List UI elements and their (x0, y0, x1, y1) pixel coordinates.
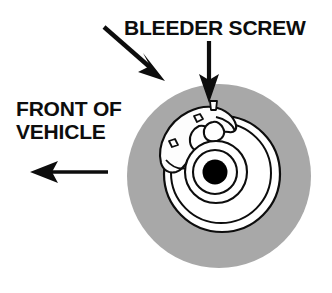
front-of-vehicle-direction-arrow (30, 161, 108, 183)
caliper-pad-lobe-upper (204, 122, 224, 142)
brake-assembly-illustration: BLEEDER SCREW FRONT OF VEHICLE (0, 0, 332, 293)
hub-center-bore (203, 160, 228, 185)
bleeder-screw (210, 101, 217, 110)
caliper-pointer-arrow-head (138, 53, 165, 81)
front-of-vehicle-label-line2: VEHICLE (16, 120, 106, 143)
bleeder-screw-label: BLEEDER SCREW (124, 16, 306, 39)
front-of-vehicle-label-line1: FRONT OF (16, 97, 122, 120)
brake-diagram-root: BLEEDER SCREW FRONT OF VEHICLE (0, 0, 332, 293)
